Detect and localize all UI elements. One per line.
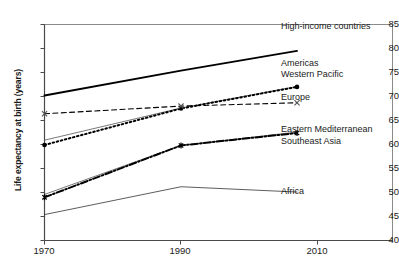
y-tick-label-65: 65	[373, 115, 399, 125]
series-line-high-income-countries	[45, 51, 298, 96]
series-line-africa	[45, 187, 298, 215]
y-tick-label-75: 75	[373, 67, 399, 77]
series-marker-western-pacific	[42, 143, 47, 148]
series-label-americas: Americas	[281, 58, 319, 69]
series-label-africa: Africa	[281, 186, 304, 197]
y-tick-label-50: 50	[373, 187, 399, 197]
y-tick-label-80: 80	[373, 43, 399, 53]
chart-figure: Life expectancy at birth (years) 40 45 5…	[0, 0, 399, 270]
series-line-eastern-mediterranean	[45, 132, 298, 194]
series-label-western-pacific: Western Pacific	[281, 69, 343, 80]
series-line-southeast-asia	[45, 133, 298, 197]
series-label-eastern-mediterranean: Eastern Mediterranean	[281, 124, 373, 135]
y-axis-title: Life expectancy at birth (years)	[13, 60, 23, 200]
y-tick-label-60: 60	[373, 139, 399, 149]
y-tick-label-45: 45	[373, 211, 399, 221]
series-label-high-income-countries: High-income countries	[281, 21, 371, 32]
series-marker-western-pacific	[179, 106, 184, 111]
series-marker-western-pacific	[295, 85, 300, 90]
y-tick-label-55: 55	[373, 163, 399, 173]
series-label-southeast-asia: Southeast Asia	[281, 136, 341, 147]
y-tick-label-85: 85	[373, 19, 399, 29]
x-tick-label-1970: 1970	[24, 246, 64, 256]
y-tick-label-70: 70	[373, 91, 399, 101]
data-series-group	[42, 51, 300, 215]
plot-area	[0, 0, 399, 270]
x-tick-marks	[45, 241, 318, 245]
y-tick-label-40: 40	[373, 235, 399, 245]
x-tick-label-2010: 2010	[297, 246, 337, 256]
series-label-europe: Europe	[281, 92, 310, 103]
x-tick-label-1990: 1990	[160, 246, 200, 256]
